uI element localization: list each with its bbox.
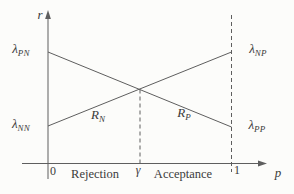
tick-one: 1: [234, 164, 240, 176]
tick-zero: 0: [50, 165, 56, 177]
x-axis-arrow-icon: [258, 161, 267, 167]
diagram-canvas: [0, 0, 294, 194]
rn-base: R: [91, 107, 99, 122]
y-axis-label: r: [37, 8, 42, 21]
lambda-np-label: λNP: [249, 42, 267, 58]
lambda-pn-subscript: PN: [18, 48, 30, 58]
rp-base: R: [177, 105, 185, 120]
region-rp-label: RP: [177, 106, 191, 122]
lambda-nn-label: λNN: [12, 117, 30, 133]
tick-gamma: γ: [136, 164, 141, 176]
x-axis-label: p: [275, 166, 282, 179]
lambda-pp-label: λPP: [248, 118, 265, 134]
region-rn-label: RN: [91, 108, 105, 124]
lambda-pp-subscript: PP: [254, 124, 265, 134]
y-axis-arrow-icon: [45, 10, 51, 19]
lambda-nn-subscript: NN: [18, 123, 30, 133]
lambda-np-subscript: NP: [255, 48, 267, 58]
lambda-pn-label: λPN: [12, 42, 30, 58]
acceptance-region-label: Acceptance: [154, 168, 212, 181]
rejection-region-label: Rejection: [71, 168, 119, 181]
rn-subscript: N: [99, 114, 105, 124]
rp-subscript: P: [185, 112, 191, 122]
decision-threshold-diagram: r p λPN λNN λNP λPP RN RP 0 γ 1 Rejectio…: [0, 0, 294, 194]
